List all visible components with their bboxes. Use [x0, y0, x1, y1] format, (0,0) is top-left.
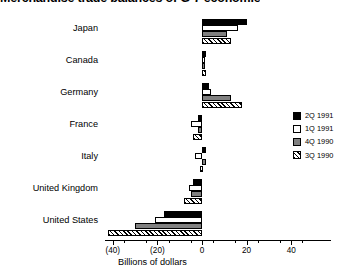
chart-row: United States [0, 206, 345, 238]
bar-united-states-1q-1991 [155, 217, 202, 223]
legend-label: 2Q 1991 [305, 111, 333, 120]
bar-canada-3q-1990 [202, 70, 206, 76]
x-axis-title-text: Billions of dollars [118, 257, 187, 267]
bar-france-3q-1990 [193, 134, 202, 140]
bar-group [0, 14, 345, 46]
x-axis-tick-label: 20 [242, 246, 251, 255]
chart-legend: 2Q 19911Q 19914Q 19903Q 1990 [293, 110, 333, 163]
x-axis-tick-minor [302, 240, 303, 243]
legend-swatch-1q-1991 [293, 125, 301, 133]
legend-item: 3Q 1990 [293, 150, 333, 161]
bar-united-states-2q-1991 [164, 211, 202, 217]
chart-title: Merchandise trade balances of G-7 econom… [0, 0, 260, 5]
bar-italy-4q-1990 [202, 159, 206, 165]
x-axis-tick-label: 40 [287, 246, 296, 255]
bar-germany-1q-1991 [202, 89, 211, 95]
x-axis-tick-major [202, 240, 203, 245]
bar-japan-4q-1990 [202, 31, 227, 37]
x-axis-tick-minor [169, 240, 170, 243]
bar-japan-3q-1990 [202, 38, 231, 44]
x-axis-title: Billions of dollars [0, 257, 345, 267]
bar-group [0, 206, 345, 238]
x-axis-line [105, 240, 331, 241]
chart-row: Japan [0, 14, 345, 46]
x-axis-tick-label: 0 [200, 246, 205, 255]
legend-item: 4Q 1990 [293, 136, 333, 147]
x-axis-tick-label: (40) [106, 246, 121, 255]
bar-france-4q-1990 [198, 127, 202, 133]
bar-canada-2q-1991 [202, 51, 206, 57]
bar-italy-1q-1991 [195, 153, 202, 159]
bar-united-states-3q-1990 [108, 230, 202, 236]
x-axis-tick-label: (20) [150, 246, 165, 255]
x-axis-tick-minor [191, 240, 192, 243]
x-axis-tick-minor [280, 240, 281, 243]
bar-germany-2q-1991 [202, 83, 209, 89]
x-axis-tick-minor [235, 240, 236, 243]
bar-japan-2q-1991 [202, 19, 247, 25]
bar-group [0, 46, 345, 78]
bar-france-2q-1991 [198, 115, 202, 121]
bar-germany-3q-1990 [202, 102, 242, 108]
bar-united-kingdom-4q-1990 [191, 191, 202, 197]
bar-japan-1q-1991 [202, 25, 238, 31]
x-axis-tick-major [247, 240, 248, 245]
x-axis-tick-major [113, 240, 114, 245]
x-axis-tick-minor [213, 240, 214, 243]
legend-item: 2Q 1991 [293, 110, 333, 121]
chart-row: United Kingdom [0, 174, 345, 206]
legend-swatch-2q-1991 [293, 112, 301, 120]
legend-label: 4Q 1990 [305, 137, 333, 146]
bar-canada-4q-1990 [202, 63, 205, 69]
bar-group [0, 174, 345, 206]
x-axis-tick-major [157, 240, 158, 245]
chart-row: Canada [0, 46, 345, 78]
legend-label: 3Q 1990 [305, 151, 333, 160]
bar-italy-3q-1990 [200, 166, 203, 172]
x-axis-tick-minor [258, 240, 259, 243]
x-axis-tick-minor [146, 240, 147, 243]
merchandise-trade-balance-chart: Merchandise trade balances of G-7 econom… [0, 0, 345, 269]
bar-united-states-4q-1990 [135, 223, 202, 229]
bar-united-kingdom-2q-1991 [193, 179, 202, 185]
bar-united-kingdom-3q-1990 [184, 198, 202, 204]
bar-canada-1q-1991 [202, 57, 205, 63]
bar-france-1q-1991 [191, 121, 202, 127]
legend-item: 1Q 1991 [293, 123, 333, 134]
x-axis-tick-minor [124, 240, 125, 243]
bar-united-kingdom-1q-1991 [189, 185, 202, 191]
legend-label: 1Q 1991 [305, 124, 333, 133]
legend-swatch-3q-1990 [293, 151, 301, 159]
bar-germany-4q-1990 [202, 95, 231, 101]
bar-italy-2q-1991 [202, 147, 206, 153]
x-axis-tick-major [291, 240, 292, 245]
chart-row: Germany [0, 78, 345, 110]
legend-swatch-4q-1990 [293, 138, 301, 146]
bar-group [0, 78, 345, 110]
